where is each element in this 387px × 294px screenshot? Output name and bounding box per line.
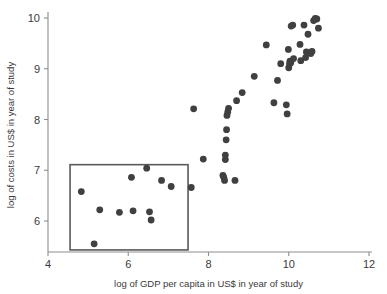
data-point <box>274 77 281 84</box>
data-point <box>143 165 150 172</box>
y-tick-label-7: 7 <box>34 164 40 176</box>
y-tick-label-10: 10 <box>28 12 40 24</box>
data-point <box>223 126 230 133</box>
y-axis-title: log of costs in US$ in year of study <box>5 62 16 209</box>
x-tick-label-4: 4 <box>45 258 51 270</box>
data-point <box>290 55 297 62</box>
y-tick-label-8: 8 <box>34 114 40 126</box>
x-tick-label-10: 10 <box>283 258 295 270</box>
data-point <box>309 48 316 55</box>
data-point <box>315 25 322 32</box>
data-point <box>96 206 103 213</box>
data-points-layer <box>78 15 322 247</box>
data-point <box>168 183 175 190</box>
data-point <box>116 209 123 216</box>
data-point <box>271 99 278 106</box>
data-point <box>78 188 85 195</box>
data-point <box>225 105 232 112</box>
data-point <box>190 105 197 112</box>
y-tick-label-9: 9 <box>34 63 40 75</box>
data-point <box>263 42 270 49</box>
axis-labels: log of GDP per capita in US$ in year of … <box>5 62 303 289</box>
data-point <box>285 46 292 53</box>
data-point <box>232 177 239 184</box>
data-point <box>223 136 230 143</box>
data-point <box>188 184 195 191</box>
axes: 6789104681012 <box>28 12 375 270</box>
data-point <box>251 73 258 80</box>
data-point <box>91 240 98 247</box>
x-tick-label-8: 8 <box>205 258 211 270</box>
data-point <box>297 41 304 48</box>
y-tick-label-6: 6 <box>34 215 40 227</box>
data-point <box>305 31 312 38</box>
data-point <box>301 22 308 29</box>
data-point <box>283 101 290 108</box>
plot-canvas: 6789104681012 log of GDP per capita in U… <box>0 0 387 294</box>
data-point <box>277 60 284 67</box>
x-tick-label-6: 6 <box>125 258 131 270</box>
data-point <box>146 208 153 215</box>
data-point <box>221 177 228 184</box>
data-point <box>313 16 320 23</box>
x-axis-title: log of GDP per capita in US$ in year of … <box>114 278 303 289</box>
x-tick-label-12: 12 <box>363 258 375 270</box>
data-point <box>200 156 207 163</box>
data-point <box>130 207 137 214</box>
scatter-plot-figure: 6789104681012 log of GDP per capita in U… <box>0 0 387 294</box>
data-point <box>239 89 246 96</box>
data-point <box>289 22 296 29</box>
data-point <box>158 177 165 184</box>
data-point <box>128 174 135 181</box>
data-point <box>284 111 291 118</box>
data-point <box>233 97 240 104</box>
data-point <box>148 217 155 224</box>
data-point <box>222 152 229 159</box>
